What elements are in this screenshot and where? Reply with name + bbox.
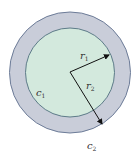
diagram-canvas: r1 r2 c1 c2 — [0, 0, 135, 154]
concentric-circles-diagram: r1 r2 c1 c2 — [0, 0, 135, 154]
c2-label: c2 — [87, 140, 97, 152]
